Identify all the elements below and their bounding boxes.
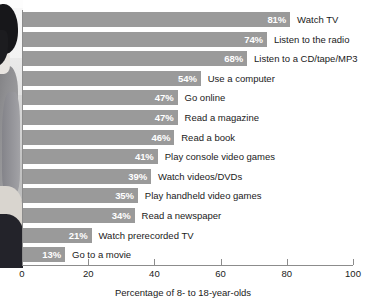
bar-value-label: 46% (147, 130, 170, 145)
bar-row: 34%Read a newspaper (22, 208, 135, 223)
bar (22, 12, 290, 27)
plot-area: 81%Watch TV74%Listen to the radio68%List… (0, 0, 366, 306)
bar-value-label: 34% (108, 208, 131, 223)
bar-category-label: Go online (185, 90, 226, 105)
bar-row: 54%Use a computer (22, 71, 201, 86)
bar-row: 21%Watch prerecorded TV (22, 228, 92, 243)
bar-category-label: Watch videos/DVDs (158, 169, 242, 184)
bar-value-label: 21% (65, 228, 88, 243)
bar-value-label: 74% (240, 32, 263, 47)
bar-value-label: 41% (131, 149, 154, 164)
bar-category-label: Go to a movie (72, 247, 131, 262)
bar-row: 41%Play console video games (22, 149, 158, 164)
x-axis-tick (22, 259, 23, 265)
bar-category-label: Listen to a CD/tape/MP3 (254, 51, 358, 66)
bar-row: 35%Play handheld video games (22, 188, 138, 203)
x-axis-tick (154, 259, 155, 265)
bar-value-label: 39% (124, 169, 147, 184)
bar-row: 47%Read a magazine (22, 110, 178, 125)
x-axis-tick (353, 259, 354, 265)
x-axis-tick-label: 60 (215, 268, 226, 279)
bar-row: 47%Go online (22, 90, 178, 105)
x-axis-tick-label: 20 (83, 268, 94, 279)
x-axis-tick (221, 259, 222, 265)
bar-value-label: 47% (151, 90, 174, 105)
bar-value-label: 35% (111, 188, 134, 203)
y-axis-line (22, 10, 23, 266)
bar-category-label: Read a newspaper (142, 208, 222, 223)
bar-category-label: Read a magazine (185, 110, 259, 125)
bar-value-label: 54% (174, 71, 197, 86)
bar-category-label: Listen to the radio (274, 32, 350, 47)
x-axis-line (22, 265, 353, 266)
x-axis-tick (287, 259, 288, 265)
bar-category-label: Use a computer (208, 71, 275, 86)
bar-value-label: 68% (220, 51, 243, 66)
x-axis-tick-label: 40 (149, 268, 160, 279)
x-axis-title: Percentage of 8- to 18-year-olds (0, 287, 366, 298)
bar-row: 68%Listen to a CD/tape/MP3 (22, 51, 247, 66)
bar-value-label: 47% (151, 110, 174, 125)
x-axis-tick (88, 259, 89, 265)
bar (22, 51, 247, 66)
bar-row: 81%Watch TV (22, 12, 290, 27)
bar-chart-figure: 81%Watch TV74%Listen to the radio68%List… (0, 0, 366, 306)
bar-category-label: Watch TV (297, 12, 338, 27)
bar (22, 32, 267, 47)
bar-row: 46%Read a book (22, 130, 174, 145)
x-axis-tick-label: 100 (345, 268, 361, 279)
bar-value-label: 81% (263, 12, 286, 27)
bar-value-label: 13% (38, 247, 61, 262)
bar-category-label: Play console video games (165, 149, 275, 164)
x-axis-tick-label: 80 (282, 268, 293, 279)
bar-category-label: Read a book (181, 130, 235, 145)
bar-category-label: Watch prerecorded TV (99, 228, 194, 243)
bar-row: 13%Go to a movie (22, 247, 65, 262)
x-axis-tick-label: 0 (19, 268, 24, 279)
bar-row: 39%Watch videos/DVDs (22, 169, 151, 184)
bar-row: 74%Listen to the radio (22, 32, 267, 47)
bar-category-label: Play handheld video games (145, 188, 262, 203)
